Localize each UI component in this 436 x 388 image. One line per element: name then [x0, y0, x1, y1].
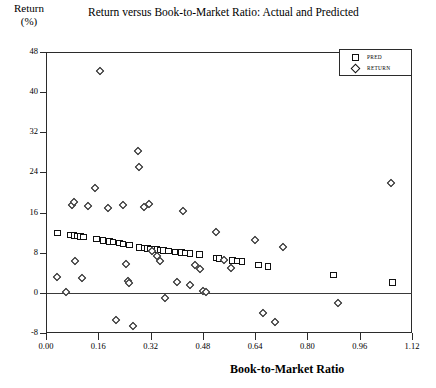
- y-tick: [40, 213, 47, 214]
- x-tick-label: 0.96: [340, 341, 380, 351]
- legend: PRED RETURN: [339, 49, 412, 76]
- data-point-pred: [126, 242, 133, 249]
- data-point-pred: [93, 236, 100, 243]
- x-tick-label: 0.00: [26, 341, 66, 351]
- data-point-pred: [265, 263, 272, 270]
- data-point-pred: [80, 234, 87, 241]
- y-tick-label: 48: [8, 46, 38, 56]
- y-tick-label: 32: [8, 126, 38, 136]
- y-tick: [40, 52, 47, 53]
- legend-label-return: RETURN: [367, 65, 390, 71]
- x-tick-label: 0.64: [235, 341, 275, 351]
- x-axis-label: Book-to-Market Ratio: [230, 362, 344, 377]
- x-tick: [307, 333, 308, 340]
- x-tick-label: 1.12: [392, 341, 432, 351]
- data-point-pred: [187, 250, 194, 257]
- x-tick: [46, 333, 47, 340]
- y-tick-label: 8: [8, 247, 38, 257]
- x-tick-label: 0.16: [78, 341, 118, 351]
- data-point-pred: [330, 272, 337, 279]
- chart-title: Return versus Book-to-Market Ratio: Actu…: [88, 6, 359, 18]
- x-tick-label: 0.32: [131, 341, 171, 351]
- x-tick: [203, 333, 204, 340]
- y-tick-label: 16: [8, 207, 38, 217]
- legend-label-pred: PRED: [367, 54, 382, 60]
- zero-reference-line: [46, 293, 412, 294]
- y-tick: [40, 253, 47, 254]
- y-tick: [40, 172, 47, 173]
- data-point-pred: [389, 279, 396, 286]
- y-axis-label-line2: (%): [14, 15, 44, 28]
- data-point-pred: [239, 258, 246, 265]
- plot-frame: [46, 52, 412, 333]
- y-tick-label: -8: [8, 327, 38, 337]
- y-tick: [40, 293, 47, 294]
- data-point-pred: [255, 262, 262, 269]
- data-point-pred: [120, 241, 127, 248]
- x-tick-label: 0.48: [183, 341, 223, 351]
- data-point-pred: [54, 230, 61, 237]
- chart-root: Return (%) Return versus Book-to-Market …: [0, 0, 436, 388]
- x-tick: [98, 333, 99, 340]
- data-point-pred: [172, 249, 179, 256]
- data-point-pred: [110, 239, 117, 246]
- y-tick-label: 40: [8, 86, 38, 96]
- legend-square-icon: [352, 54, 359, 61]
- y-tick: [40, 132, 47, 133]
- data-point-pred: [100, 237, 107, 244]
- x-tick: [360, 333, 361, 340]
- x-tick: [412, 333, 413, 340]
- x-tick: [255, 333, 256, 340]
- legend-diamond-icon: [351, 64, 361, 74]
- y-tick-label: 0: [8, 287, 38, 297]
- x-tick: [151, 333, 152, 340]
- y-tick: [40, 92, 47, 93]
- x-tick-label: 0.80: [287, 341, 327, 351]
- y-axis-label-line1: Return: [14, 2, 44, 14]
- data-point-pred: [196, 251, 203, 258]
- y-axis-label: Return (%): [14, 2, 44, 28]
- y-tick-label: 24: [8, 166, 38, 176]
- data-point-pred: [165, 248, 172, 255]
